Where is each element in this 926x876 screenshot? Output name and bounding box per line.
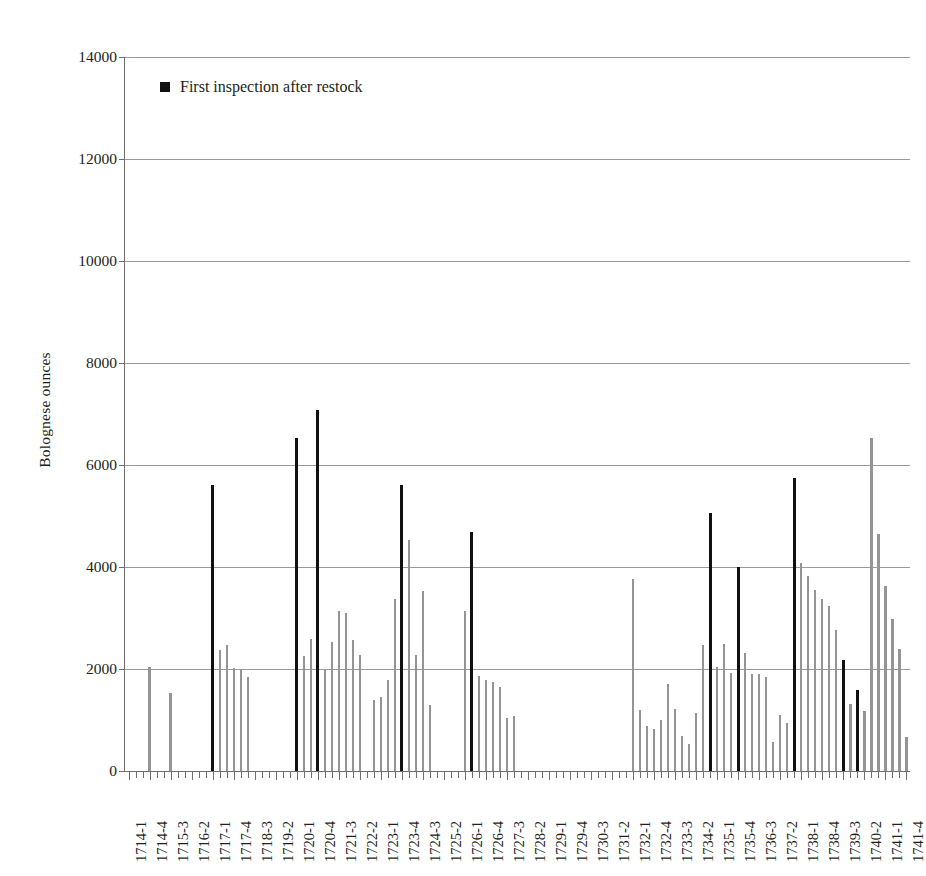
x-axis-tickmark xyxy=(290,771,291,778)
bar xyxy=(660,720,662,771)
y-axis-tick-label: 6000 xyxy=(47,457,117,473)
bar xyxy=(506,718,508,771)
x-axis-tickmark xyxy=(248,771,249,778)
x-axis-tickmark xyxy=(710,771,711,778)
x-axis-tick-label: 1738-1 xyxy=(806,821,821,862)
bar xyxy=(331,642,333,771)
x-axis-tick-label: 1732-4 xyxy=(659,821,674,862)
bar xyxy=(148,667,150,771)
x-axis-tickmark xyxy=(276,771,277,780)
x-axis-tickmark xyxy=(738,771,739,780)
x-axis-tickmark xyxy=(472,771,473,778)
x-axis-tickmark xyxy=(178,771,179,778)
y-axis-tick-label: 2000 xyxy=(47,661,117,677)
x-axis-tick-label: 1718-3 xyxy=(260,821,275,862)
bar xyxy=(359,655,361,771)
x-axis-tickmark xyxy=(304,771,305,778)
x-axis-tickmark xyxy=(752,771,753,778)
x-axis-tick-label: 1739-3 xyxy=(848,821,863,862)
x-axis-tickmark xyxy=(745,771,746,778)
bar xyxy=(169,693,171,771)
x-axis-tickmark xyxy=(157,771,158,778)
x-axis-tickmark xyxy=(332,771,333,778)
bar xyxy=(870,438,872,771)
bar xyxy=(464,611,466,771)
bar xyxy=(800,563,802,771)
bar xyxy=(877,534,879,771)
bar xyxy=(422,591,424,771)
x-axis-tickmark xyxy=(892,771,893,778)
bar xyxy=(387,680,389,771)
bar xyxy=(765,677,767,771)
x-axis-tick-label: 1716-2 xyxy=(197,821,212,862)
chart-legend: First inspection after restock xyxy=(160,78,363,96)
bar-highlight xyxy=(793,478,796,771)
x-axis-tickmark xyxy=(689,771,690,778)
bar-highlight xyxy=(737,567,740,771)
x-axis-tick-label: 1735-4 xyxy=(743,821,758,862)
x-axis-tick-label: 1733-3 xyxy=(680,821,695,862)
bar xyxy=(667,684,669,771)
x-axis-tickmark xyxy=(661,771,662,778)
x-axis-tickmark xyxy=(577,771,578,778)
bar xyxy=(492,682,494,771)
x-axis-tick-label: 1715-3 xyxy=(176,821,191,862)
x-axis-tick-label: 1725-2 xyxy=(449,821,464,862)
x-axis-tickmark xyxy=(843,771,844,780)
x-axis-tickmark xyxy=(346,771,347,778)
x-axis-tickmark xyxy=(416,771,417,778)
x-axis-tick-label: 1728-2 xyxy=(533,821,548,862)
x-axis-tickmark xyxy=(143,771,144,778)
bar xyxy=(478,676,480,771)
x-axis-tick-label: 1722-2 xyxy=(365,821,380,862)
x-axis-tick-label: 1735-1 xyxy=(722,821,737,862)
x-axis-tick-label: 1736-3 xyxy=(764,821,779,862)
bar xyxy=(310,639,312,771)
x-axis-tick-label: 1724-3 xyxy=(428,821,443,862)
x-axis-tickmark xyxy=(388,771,389,778)
x-axis-tickmark xyxy=(906,771,907,780)
x-axis-tickmark xyxy=(570,771,571,780)
bar xyxy=(499,687,501,771)
x-axis-tickmark xyxy=(171,771,172,780)
x-axis-tickmark xyxy=(598,771,599,778)
x-axis-tickmark xyxy=(815,771,816,778)
x-axis-tickmark xyxy=(647,771,648,778)
y-axis-tick-label: 0 xyxy=(47,763,117,779)
x-axis-tickmark xyxy=(591,771,592,780)
x-axis-tickmark xyxy=(731,771,732,778)
bar xyxy=(758,674,760,771)
x-axis-tickmark xyxy=(486,771,487,780)
bar-highlight xyxy=(316,410,319,771)
bar xyxy=(485,680,487,771)
x-axis-tickmark xyxy=(220,771,221,778)
x-axis-tick-label: 1723-4 xyxy=(407,821,422,862)
x-axis-tickmark xyxy=(318,771,319,780)
x-axis-tickmark xyxy=(521,771,522,778)
x-axis-tick-label: 1727-3 xyxy=(512,821,527,862)
x-axis-tickmark xyxy=(241,771,242,778)
x-axis-tickmark xyxy=(556,771,557,778)
x-axis-tickmark xyxy=(549,771,550,780)
x-axis-tickmark xyxy=(437,771,438,778)
bar xyxy=(849,704,851,771)
x-axis-tickmark xyxy=(864,771,865,780)
bar xyxy=(345,613,347,771)
bar xyxy=(303,656,305,771)
bar xyxy=(786,723,788,771)
bar xyxy=(352,640,354,771)
x-axis-tick-label: 1723-1 xyxy=(386,821,401,862)
bar xyxy=(744,653,746,771)
x-axis-tickmark xyxy=(325,771,326,778)
x-axis-tick-label: 1730-3 xyxy=(596,821,611,862)
bar xyxy=(807,576,809,771)
x-axis-tickmark xyxy=(822,771,823,780)
x-axis-tick-label: 1726-1 xyxy=(470,821,485,862)
x-axis-tickmark xyxy=(633,771,634,780)
bar xyxy=(772,742,774,771)
x-axis-tickmark xyxy=(297,771,298,780)
plot-area xyxy=(125,57,910,771)
bar xyxy=(513,716,515,771)
x-axis-tickmark xyxy=(850,771,851,778)
x-axis-tick-label: 1714-1 xyxy=(134,821,149,862)
